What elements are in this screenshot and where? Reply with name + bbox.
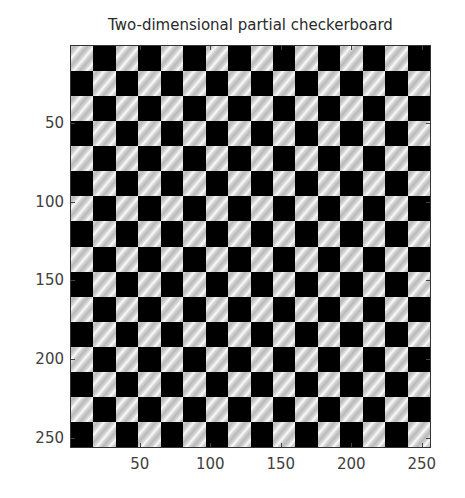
checker-cell-light bbox=[116, 397, 138, 422]
checker-cell-dark bbox=[363, 146, 385, 171]
checker-cell-dark bbox=[385, 71, 407, 96]
checker-cell-dark bbox=[183, 96, 205, 121]
checker-cell-light bbox=[228, 422, 250, 447]
checker-cell-light bbox=[93, 422, 115, 447]
checker-cell-light bbox=[408, 272, 430, 297]
checker-cell-light bbox=[318, 221, 340, 246]
checker-cell-light bbox=[251, 196, 273, 221]
checker-cell-light bbox=[138, 322, 160, 347]
checker-cell-light bbox=[116, 347, 138, 372]
checker-cell-dark bbox=[318, 297, 340, 322]
checker-cell-light bbox=[295, 397, 317, 422]
checker-cell-light bbox=[340, 196, 362, 221]
checker-cell-light bbox=[385, 46, 407, 71]
checker-cell-dark bbox=[183, 247, 205, 272]
checker-cell-dark bbox=[116, 171, 138, 196]
checker-cell-light bbox=[408, 71, 430, 96]
checker-cell-dark bbox=[251, 322, 273, 347]
checker-cell-light bbox=[206, 397, 228, 422]
checker-cell-light bbox=[385, 96, 407, 121]
checker-cell-light bbox=[251, 146, 273, 171]
checker-cell-dark bbox=[340, 71, 362, 96]
checker-cell-dark bbox=[273, 196, 295, 221]
y-tick-label: 50 bbox=[45, 114, 64, 132]
x-tick-label: 200 bbox=[337, 455, 366, 473]
checker-cell-light bbox=[116, 96, 138, 121]
checker-cell-light bbox=[318, 372, 340, 397]
checker-cell-light bbox=[116, 46, 138, 71]
checker-cell-light bbox=[363, 221, 385, 246]
checker-cell-dark bbox=[228, 397, 250, 422]
checker-cell-dark bbox=[363, 196, 385, 221]
checker-cell-dark bbox=[318, 247, 340, 272]
checker-cell-dark bbox=[93, 397, 115, 422]
checker-cell-dark bbox=[363, 347, 385, 372]
checker-cell-dark bbox=[363, 96, 385, 121]
checker-cell-light bbox=[340, 146, 362, 171]
checker-cell-dark bbox=[71, 322, 93, 347]
x-tick-mark bbox=[210, 443, 211, 447]
checker-cell-light bbox=[116, 196, 138, 221]
checker-cell-light bbox=[161, 196, 183, 221]
checker-cell-light bbox=[385, 146, 407, 171]
checker-cell-light bbox=[183, 372, 205, 397]
checker-cell-dark bbox=[71, 221, 93, 246]
checker-cell-dark bbox=[228, 96, 250, 121]
checker-cell-light bbox=[161, 297, 183, 322]
checker-cell-light bbox=[408, 121, 430, 146]
checker-cell-light bbox=[295, 46, 317, 71]
checker-cell-dark bbox=[161, 121, 183, 146]
y-tick-label: 250 bbox=[35, 429, 64, 447]
checker-cell-light bbox=[408, 322, 430, 347]
checker-cell-dark bbox=[340, 322, 362, 347]
y-tick-mark-right bbox=[426, 202, 430, 203]
checker-cell-dark bbox=[116, 322, 138, 347]
checker-cell-light bbox=[71, 397, 93, 422]
checker-cell-dark bbox=[116, 71, 138, 96]
checker-cell-dark bbox=[71, 272, 93, 297]
checker-cell-light bbox=[318, 71, 340, 96]
checker-cell-light bbox=[363, 272, 385, 297]
checker-cell-dark bbox=[206, 71, 228, 96]
checker-cell-light bbox=[228, 71, 250, 96]
checker-cell-dark bbox=[71, 422, 93, 447]
checker-cell-dark bbox=[385, 121, 407, 146]
x-tick-label: 250 bbox=[408, 455, 437, 473]
checker-cell-light bbox=[273, 221, 295, 246]
checker-cell-dark bbox=[251, 121, 273, 146]
checker-cell-light bbox=[228, 171, 250, 196]
checker-cell-light bbox=[385, 397, 407, 422]
x-tick-mark-top bbox=[351, 46, 352, 50]
checker-cell-light bbox=[318, 322, 340, 347]
checker-cell-dark bbox=[340, 372, 362, 397]
checker-cell-light bbox=[340, 397, 362, 422]
checker-cell-light bbox=[228, 372, 250, 397]
checker-cell-dark bbox=[161, 221, 183, 246]
checker-cell-light bbox=[228, 322, 250, 347]
x-tick-mark-top bbox=[140, 46, 141, 50]
y-tick-label: 150 bbox=[35, 271, 64, 289]
checker-cell-dark bbox=[161, 171, 183, 196]
checker-cell-light bbox=[363, 372, 385, 397]
checker-cell-light bbox=[251, 46, 273, 71]
checker-cell-light bbox=[206, 146, 228, 171]
checker-cell-light bbox=[71, 297, 93, 322]
y-tick-mark bbox=[71, 123, 75, 124]
checker-cell-dark bbox=[116, 221, 138, 246]
checker-cell-dark bbox=[340, 221, 362, 246]
checker-cell-light bbox=[363, 322, 385, 347]
checker-cell-light bbox=[183, 322, 205, 347]
checker-cell-dark bbox=[251, 71, 273, 96]
checker-cell-dark bbox=[251, 221, 273, 246]
checker-cell-light bbox=[138, 272, 160, 297]
checker-cell-light bbox=[183, 71, 205, 96]
checker-cell-light bbox=[138, 71, 160, 96]
checker-cell-light bbox=[408, 422, 430, 447]
checker-cell-dark bbox=[161, 372, 183, 397]
checker-cell-dark bbox=[228, 46, 250, 71]
checker-cell-light bbox=[138, 422, 160, 447]
x-tick-mark bbox=[351, 443, 352, 447]
checker-cell-dark bbox=[206, 221, 228, 246]
checker-cell-light bbox=[228, 221, 250, 246]
checker-cell-dark bbox=[408, 247, 430, 272]
